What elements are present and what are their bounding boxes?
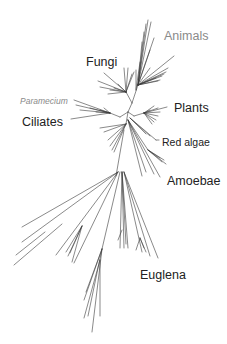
label-plants: Plants bbox=[174, 102, 209, 115]
label-animals: Animals bbox=[164, 30, 208, 43]
amoebae-branches bbox=[128, 120, 166, 177]
label-euglena: Euglena bbox=[140, 269, 186, 282]
euglena-branches bbox=[84, 172, 158, 332]
label-paramecium: Paramecium bbox=[20, 97, 68, 106]
plants-branches bbox=[134, 106, 167, 124]
label-amoebae: Amoebae bbox=[167, 175, 221, 188]
tree-root-hub bbox=[120, 103, 134, 124]
label-ciliates: Ciliates bbox=[22, 116, 63, 129]
phylogenetic-tree bbox=[0, 0, 227, 344]
fungi-branches bbox=[98, 68, 134, 103]
ciliates-branches bbox=[71, 100, 120, 119]
label-red-algae: Red algae bbox=[162, 137, 210, 148]
lower-left-branches bbox=[14, 124, 126, 265]
label-fungi: Fungi bbox=[86, 56, 117, 69]
